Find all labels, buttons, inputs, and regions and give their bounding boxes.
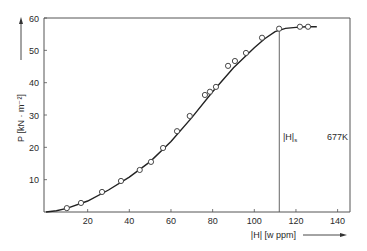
data-points <box>64 24 310 211</box>
data-point <box>64 206 69 211</box>
y-tick-label: 40 <box>29 78 39 88</box>
y-tick-label: 30 <box>29 111 39 121</box>
y-tick-label: 60 <box>29 14 39 24</box>
data-point <box>118 178 123 183</box>
data-point <box>259 35 264 40</box>
pressure-concentration-chart: 102030405060 20406080100120140 P [kN · m… <box>0 0 367 251</box>
temperature-label: 677K <box>327 132 348 142</box>
data-point <box>202 92 207 97</box>
fit-curve <box>46 27 317 212</box>
data-point <box>174 129 179 134</box>
plot-frame <box>44 18 350 212</box>
x-tick-label: 20 <box>83 216 93 226</box>
y-tick-label: 50 <box>29 46 39 56</box>
data-point <box>187 113 192 118</box>
x-tick-label: 40 <box>124 216 134 226</box>
x-tick-label: 60 <box>166 216 176 226</box>
data-point <box>232 58 237 63</box>
data-point <box>225 63 230 68</box>
x-tick-label: 140 <box>330 216 345 226</box>
hs-label: |H|s <box>283 132 297 143</box>
data-point <box>276 26 281 31</box>
data-point <box>243 50 248 55</box>
data-point <box>99 189 104 194</box>
data-point <box>207 89 212 94</box>
x-tick-label: 120 <box>288 216 303 226</box>
data-point <box>160 145 165 150</box>
data-point <box>297 24 302 29</box>
y-axis-arrow <box>19 17 23 60</box>
x-axis-title: |H| [w ppm] <box>251 230 296 240</box>
data-point <box>137 167 142 172</box>
data-point <box>148 159 153 164</box>
y-axis-title: P [kN · m⁻²] <box>16 94 26 142</box>
data-point <box>305 24 310 29</box>
x-tick-label: 100 <box>247 216 262 226</box>
data-point <box>213 84 218 89</box>
x-tick-label: 80 <box>208 216 218 226</box>
y-axis-label: P [kN · m⁻²] <box>16 94 26 142</box>
data-point <box>78 200 83 205</box>
y-tick-label: 20 <box>29 143 39 153</box>
y-tick-label: 10 <box>29 175 39 185</box>
x-axis-arrow <box>303 233 347 237</box>
